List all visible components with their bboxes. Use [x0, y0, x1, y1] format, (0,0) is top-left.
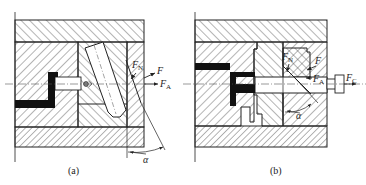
locking-heel: [127, 42, 144, 127]
panel-a: FN F FA α (a): [5, 12, 171, 177]
bottom-plate: [195, 126, 327, 147]
caption-a: (a): [68, 165, 79, 177]
label-f: F: [314, 55, 322, 66]
label-alpha: α: [143, 154, 149, 165]
core-pin: [55, 77, 81, 90]
panel-b: FN F FA FC α (b): [183, 12, 366, 177]
label-alpha: α: [296, 110, 302, 121]
label-fc: FC: [345, 72, 357, 85]
label-fa: FA: [159, 78, 171, 91]
bottom-plate: [15, 127, 144, 147]
caption-b: (b): [270, 165, 282, 177]
top-plate: [15, 20, 144, 42]
resultant-force-arrow: [144, 73, 155, 78]
mold-force-diagram: FN F FA α (a): [0, 0, 366, 185]
label-f: F: [156, 65, 164, 76]
top-plate: [195, 20, 327, 42]
